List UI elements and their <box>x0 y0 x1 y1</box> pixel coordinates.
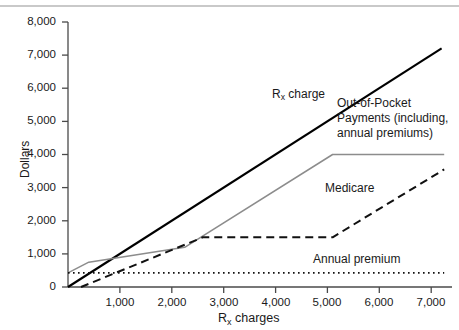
annotation-medicare: Medicare <box>325 181 374 196</box>
x-tick-label-4000: 4,000 <box>250 296 302 308</box>
annotation-rx-charge-subscript: x <box>281 92 285 102</box>
x-axis-label-suffix: charges <box>232 311 280 325</box>
annotation-rx-charge: Rx charge <box>272 87 325 103</box>
x-tick-label-7000: 7,000 <box>405 296 457 308</box>
x-tick-label-2000: 2,000 <box>146 296 198 308</box>
x-tick-label-5000: 5,000 <box>301 296 353 308</box>
y-tick-label-8000: 8,000 <box>4 15 56 27</box>
y-tick-label-6000: 6,000 <box>4 81 56 93</box>
annotation-out-of-pocket-line2: Payments (including, <box>337 111 448 126</box>
annotation-rx-charge-suffix: charge <box>285 87 325 101</box>
y-tick-label-3000: 3,000 <box>4 181 56 193</box>
annotation-annual-premium: Annual premium <box>313 252 400 267</box>
annotation-out-of-pocket-line3: annual premiums) <box>337 126 433 141</box>
x-axis-label-subscript: x <box>227 317 232 327</box>
y-tick-label-2000: 2,000 <box>4 214 56 226</box>
y-tick-label-5000: 5,000 <box>4 114 56 126</box>
x-axis-ticks <box>120 287 431 293</box>
chart-plot-area <box>0 0 459 330</box>
x-tick-label-3000: 3,000 <box>198 296 250 308</box>
y-tick-label-1000: 1,000 <box>4 247 56 259</box>
chart-figure: 8,000 7,000 6,000 5,000 4,000 3,000 2,00… <box>0 0 459 330</box>
y-tick-label-7000: 7,000 <box>4 48 56 60</box>
x-axis-label: Rx charges <box>218 311 279 325</box>
series-medicare <box>81 169 444 287</box>
annotation-rx-charge-prefix: R <box>272 87 281 101</box>
x-tick-label-6000: 6,000 <box>353 296 405 308</box>
y-axis-ticks <box>62 22 68 287</box>
x-axis-label-prefix: R <box>218 311 227 325</box>
annotation-out-of-pocket-line1: Out-of-Pocket <box>337 96 411 111</box>
y-axis-label: Dollars <box>18 141 32 178</box>
x-tick-label-1000: 1,000 <box>94 296 146 308</box>
y-tick-label-0: 0 <box>4 280 56 292</box>
